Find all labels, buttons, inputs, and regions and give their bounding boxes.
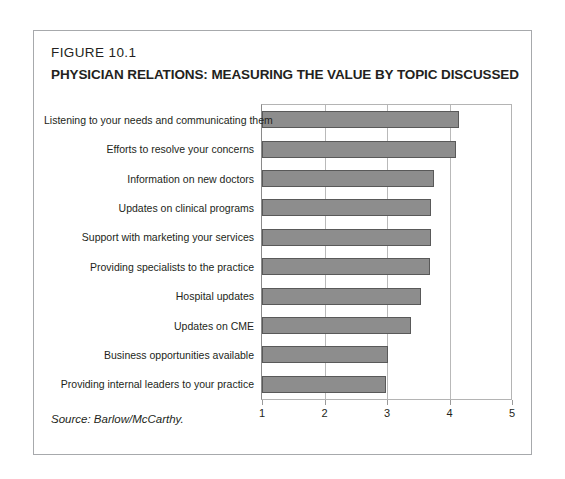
bar-row: [262, 288, 512, 305]
bar-chart: 12345 Listening to your needs and commun…: [34, 31, 533, 456]
bar-row: [262, 346, 512, 363]
bar-row: [262, 199, 512, 216]
category-label: Information on new doctors: [44, 173, 254, 185]
category-label: Providing internal leaders to your pract…: [44, 378, 254, 390]
x-tick-label: 5: [497, 407, 527, 419]
bar-row: [262, 111, 512, 128]
bars-layer: [262, 105, 512, 399]
bar-row: [262, 376, 512, 393]
bar: [262, 317, 411, 334]
x-tick-label: 2: [310, 407, 340, 419]
category-label: Updates on clinical programs: [44, 202, 254, 214]
bar: [262, 170, 434, 187]
bar-row: [262, 229, 512, 246]
x-tick-label: 3: [372, 407, 402, 419]
source-note: Source: Barlow/McCarthy.: [51, 413, 184, 425]
bar-row: [262, 258, 512, 275]
category-label: Business opportunities available: [44, 349, 254, 361]
bar: [262, 288, 421, 305]
category-label: Providing specialists to the practice: [44, 261, 254, 273]
tick-mark: [387, 400, 388, 405]
bar-row: [262, 170, 512, 187]
bar: [262, 141, 456, 158]
tick-mark: [450, 400, 451, 405]
bar: [262, 199, 431, 216]
bar: [262, 376, 386, 393]
category-label: Listening to your needs and communicatin…: [44, 114, 254, 126]
x-tick-label: 4: [435, 407, 465, 419]
bar: [262, 229, 431, 246]
tick-mark: [512, 400, 513, 405]
bar: [262, 258, 430, 275]
figure-container: FIGURE 10.1 PHYSICIAN RELATIONS: MEASURI…: [33, 30, 532, 455]
bar-row: [262, 317, 512, 334]
category-label: Efforts to resolve your concerns: [44, 143, 254, 155]
bar-row: [262, 141, 512, 158]
x-tick-label: 1: [247, 407, 277, 419]
tick-mark: [325, 400, 326, 405]
bar: [262, 346, 388, 363]
category-label: Updates on CME: [44, 320, 254, 332]
bar: [262, 111, 459, 128]
tick-mark: [262, 400, 263, 405]
category-label: Support with marketing your services: [44, 231, 254, 243]
category-label: Hospital updates: [44, 290, 254, 302]
